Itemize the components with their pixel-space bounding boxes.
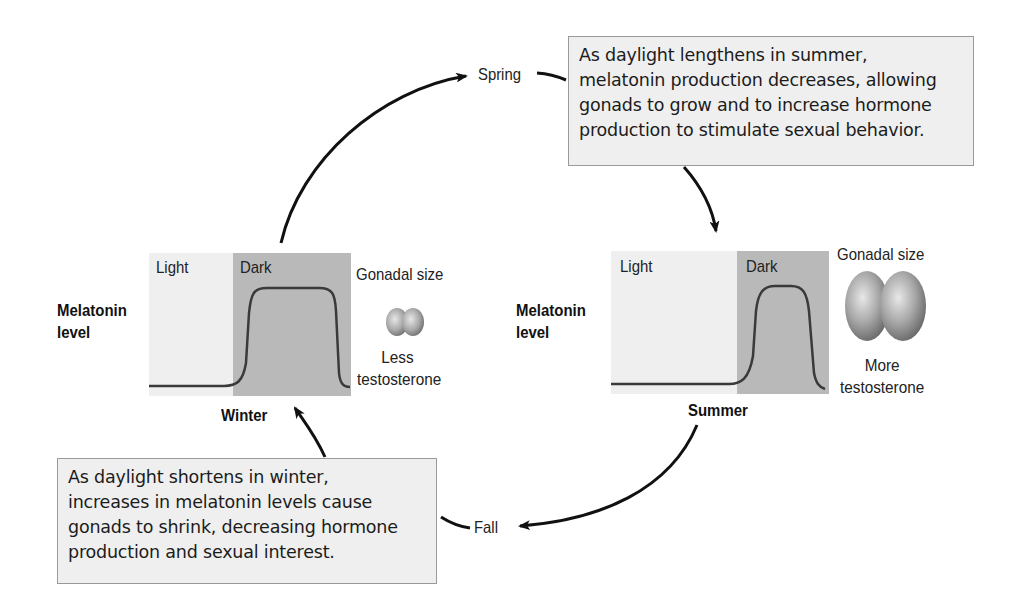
winter-season-title: Winter [221, 406, 267, 426]
winter-hormone-label: Less testosterone [357, 347, 438, 391]
winter-melatonin-curve [149, 253, 369, 403]
winter-note-line: production and sexual interest. [68, 540, 426, 565]
summer-note-line: As daylight lengthens in summer, [579, 43, 963, 68]
winter-note-line: increases in melatonin levels cause [68, 490, 426, 515]
summer-note-line: melatonin production decreases, allowing [579, 68, 963, 93]
summer-gonad-large-icon [839, 268, 939, 348]
summer-explanation-note: As daylight lengthens in summer, melaton… [568, 36, 974, 166]
summer-season-title: Summer [688, 401, 748, 421]
winter-melatonin-axis-label: Melatonin level [57, 300, 127, 344]
arrow-winter-to-spring [281, 76, 466, 243]
arrow-summer-to-fall [520, 425, 697, 526]
winter-note-line: As daylight shortens in winter, [68, 465, 426, 490]
winter-gonad-small-icon [383, 302, 433, 347]
winter-gonad-label: Gonadal size [356, 265, 443, 285]
season-label-spring: Spring [478, 65, 521, 84]
summer-gonad-label: Gonadal size [837, 245, 924, 265]
connector-fall-to-note [441, 517, 470, 528]
arrow-note-to-summer [684, 167, 716, 231]
winter-note-line: gonads to shrink, decreasing hormone [68, 515, 426, 540]
summer-hormone-label: More testosterone [838, 355, 926, 399]
summer-melatonin-axis-label: Melatonin level [516, 300, 586, 344]
season-label-fall: Fall [474, 518, 498, 537]
connector-spring-to-note [537, 73, 566, 80]
summer-melatonin-curve [611, 251, 841, 401]
summer-note-line: production to stimulate sexual behavior. [579, 118, 963, 143]
summer-note-line: gonads to grow and to increase hormone [579, 93, 963, 118]
arrow-note-to-winter [295, 408, 325, 457]
winter-explanation-note: As daylight shortens in winter, increase… [57, 458, 437, 584]
